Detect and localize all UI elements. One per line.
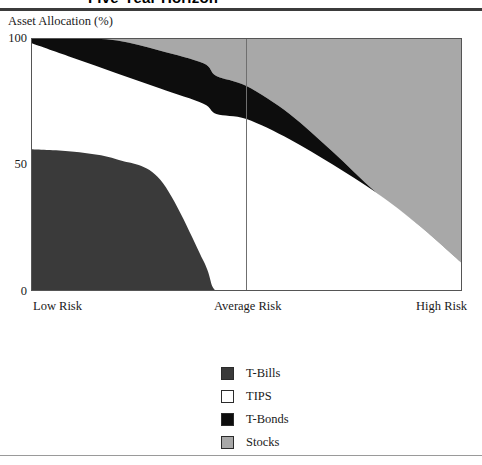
- legend-item-t-bonds: T-Bonds: [221, 408, 289, 431]
- legend-item-t-bills: T-Bills: [221, 362, 289, 385]
- legend-swatch-t-bills: [221, 367, 234, 380]
- y-axis-label: Asset Allocation (%): [8, 14, 113, 29]
- x-tick-average-risk: Average Risk: [214, 299, 281, 314]
- figure-five-year-horizon: Five-Year Horizon Asset Allocation (%) 1…: [0, 0, 482, 465]
- legend-item-tips: TIPS: [221, 385, 289, 408]
- x-tick-low-risk: Low Risk: [33, 299, 82, 314]
- legend-swatch-tips: [221, 390, 234, 403]
- legend-label-t-bills: T-Bills: [246, 366, 280, 381]
- legend-swatch-t-bonds: [221, 413, 234, 426]
- footer-divider-rule: [0, 455, 482, 456]
- legend-item-stocks: Stocks: [221, 431, 289, 454]
- x-tick-high-risk: High Risk: [416, 299, 467, 314]
- page-title: Five-Year Horizon: [88, 0, 218, 6]
- y-tick-0: 0: [2, 284, 27, 299]
- plot-area: [31, 38, 462, 291]
- legend-swatch-stocks: [221, 436, 234, 449]
- legend: T-Bills TIPS T-Bonds Stocks: [221, 362, 289, 454]
- legend-label-t-bonds: T-Bonds: [246, 412, 289, 427]
- stacked-area-chart: [31, 38, 462, 291]
- title-divider-rule: [0, 8, 482, 11]
- legend-label-tips: TIPS: [246, 389, 272, 404]
- y-tick-50: 50: [2, 157, 27, 172]
- legend-label-stocks: Stocks: [246, 435, 279, 450]
- y-tick-100: 100: [2, 31, 27, 46]
